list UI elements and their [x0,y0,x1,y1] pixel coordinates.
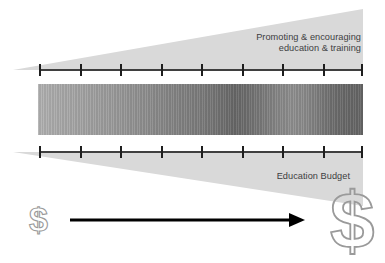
bottom-axis-tick [161,146,163,158]
grayscale-gradient-bar [38,84,363,135]
top-axis-tick [323,64,325,76]
top-axis [39,64,363,76]
upper-band-caption: Promoting & encouraging education & trai… [161,32,361,55]
bottom-axis-tick [323,146,325,158]
dollar-small-icon: $ [29,202,48,236]
dollar-large-icon: $ [330,181,375,261]
top-axis-tick [201,64,203,76]
top-axis-tick [39,64,41,76]
diagram-canvas: Promoting & encouraging education & trai… [0,0,385,263]
bottom-axis-tick [80,146,82,158]
top-axis-tick [282,64,284,76]
bottom-axis [39,146,363,158]
bottom-axis-tick [39,146,41,158]
bottom-axis-tick [242,146,244,158]
top-axis-tick [242,64,244,76]
top-axis-tick [161,64,163,76]
lower-band-caption: Education Budget [150,171,350,182]
top-axis-tick [361,64,363,76]
bottom-axis-tick [201,146,203,158]
growth-arrow-icon [70,211,305,229]
bottom-axis-tick [361,146,363,158]
top-axis-tick [80,64,82,76]
bottom-axis-tick [282,146,284,158]
bottom-axis-tick [120,146,122,158]
top-axis-tick [120,64,122,76]
